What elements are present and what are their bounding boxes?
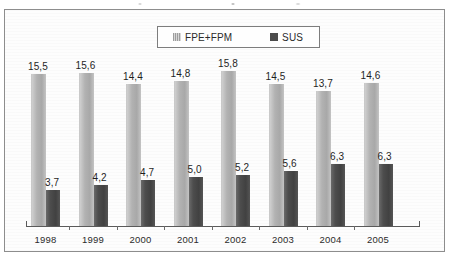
bar-fpe-fpm (79, 73, 94, 226)
data-label-sus: 5,0 (188, 164, 202, 175)
x-axis-start-cap (26, 221, 27, 226)
bar-fpe-fpm (364, 83, 379, 226)
data-label-sus: 5,6 (283, 158, 297, 169)
data-label-sus: 5,2 (235, 162, 249, 173)
bar-group: 14,85,0 (174, 54, 203, 226)
legend-swatch-icon-fpe-fpm (173, 33, 181, 41)
data-label-fpe-fpm: 14,4 (123, 71, 143, 82)
data-label-sus: 6,3 (330, 151, 344, 162)
bar-sus (284, 171, 298, 226)
data-label-fpe-fpm: 13,7 (313, 78, 333, 89)
data-label-fpe-fpm: 14,6 (361, 70, 381, 81)
scan-edge-artifact (0, 0, 450, 9)
x-axis-tick (69, 226, 70, 230)
x-axis-tick (164, 226, 165, 230)
plot-area: 15,53,715,64,214,44,714,85,015,85,214,55… (26, 54, 424, 226)
x-axis-tick (307, 226, 308, 230)
bar-sus (236, 175, 250, 226)
chart-legend: FPE+FPM SUS (157, 26, 320, 48)
bar-sus (379, 164, 393, 226)
x-axis-tick (212, 226, 213, 230)
bar-fpe-fpm (269, 84, 284, 227)
bar-group: 15,64,2 (79, 54, 108, 226)
bar-sus (46, 190, 60, 226)
data-label-fpe-fpm: 15,8 (218, 58, 238, 69)
bar-fpe-fpm (31, 74, 46, 226)
bar-group: 14,66,3 (364, 54, 393, 226)
x-axis-label-2004: 2004 (311, 234, 351, 245)
bar-fpe-fpm (126, 84, 141, 226)
x-axis-label-1999: 1999 (73, 234, 113, 245)
chart-screenshot: FPE+FPM SUS 15,53,715,64,214,44,714,85,0… (0, 0, 450, 260)
x-axis-tick (259, 226, 260, 230)
legend-item-fpe-fpm: FPE+FPM (173, 32, 232, 43)
bar-sus (189, 177, 203, 226)
bar-sus (141, 180, 155, 226)
bar-sus (331, 164, 345, 226)
x-axis-tick (354, 226, 355, 230)
bar-fpe-fpm (221, 71, 236, 226)
x-axis-label-2003: 2003 (263, 234, 303, 245)
data-label-sus: 4,7 (140, 167, 154, 178)
data-label-sus: 4,2 (93, 172, 107, 183)
data-label-fpe-fpm: 14,5 (266, 71, 286, 82)
legend-item-sus: SUS (270, 32, 303, 43)
bar-fpe-fpm (316, 91, 331, 226)
data-label-fpe-fpm: 15,6 (76, 60, 96, 71)
x-axis-label-1998: 1998 (26, 234, 66, 245)
data-label-sus: 3,7 (45, 177, 59, 188)
x-axis-end-cap (419, 221, 420, 226)
bar-group: 15,53,7 (31, 54, 60, 226)
chart-frame: FPE+FPM SUS 15,53,715,64,214,44,714,85,0… (4, 9, 445, 252)
x-axis-label-2000: 2000 (121, 234, 161, 245)
x-axis-line (26, 226, 420, 227)
x-axis-label-2001: 2001 (168, 234, 208, 245)
bar-fpe-fpm (174, 81, 189, 226)
bar-group: 14,44,7 (126, 54, 155, 226)
legend-label-fpe-fpm: FPE+FPM (185, 32, 232, 43)
bar-group: 13,76,3 (316, 54, 345, 226)
bar-sus (94, 185, 108, 226)
x-axis-label-2005: 2005 (358, 234, 398, 245)
x-axis-tick (117, 226, 118, 230)
x-axis-label-2002: 2002 (216, 234, 256, 245)
bar-group: 14,55,6 (269, 54, 298, 226)
legend-label-sus: SUS (282, 32, 303, 43)
bar-group: 15,85,2 (221, 54, 250, 226)
data-label-sus: 6,3 (378, 151, 392, 162)
data-label-fpe-fpm: 14,8 (171, 68, 191, 79)
legend-swatch-icon-sus (270, 33, 278, 41)
data-label-fpe-fpm: 15,5 (28, 61, 48, 72)
